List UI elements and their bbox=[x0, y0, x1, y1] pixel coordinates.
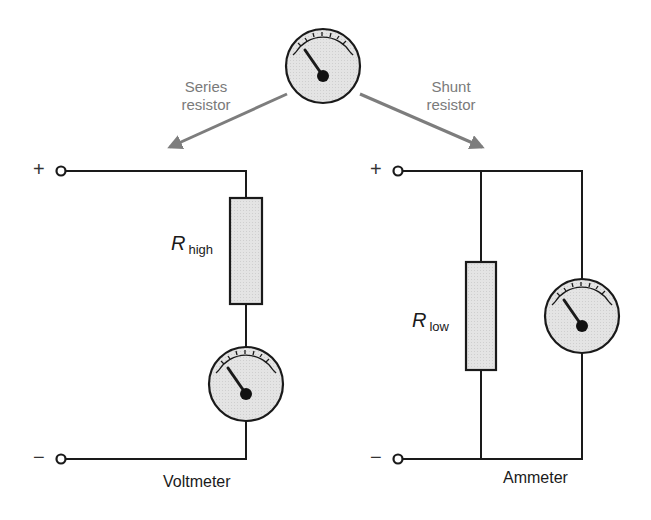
top-meter-icon bbox=[286, 29, 360, 103]
ammeter-meter-icon bbox=[545, 279, 619, 353]
minus-sign: − bbox=[370, 447, 382, 467]
minus-sign: − bbox=[33, 447, 45, 467]
ammeter-caption: Ammeter bbox=[503, 470, 568, 486]
label-line: Shunt bbox=[411, 78, 491, 96]
resistor-symbol: R bbox=[171, 232, 185, 254]
voltmeter-caption: Voltmeter bbox=[163, 474, 231, 490]
plus-sign: + bbox=[370, 159, 382, 179]
resistor-subscript: low bbox=[429, 319, 449, 334]
shunt-resistor-label: Shunt resistor bbox=[411, 78, 491, 114]
r-high-label: Rhigh bbox=[171, 233, 213, 256]
resistor-symbol: R bbox=[412, 309, 426, 331]
bottom-wire bbox=[66, 421, 246, 459]
circuit-diagram bbox=[0, 0, 651, 520]
r-high-resistor bbox=[230, 198, 262, 304]
label-line: resistor bbox=[166, 96, 246, 114]
label-line: resistor bbox=[411, 96, 491, 114]
minus-terminal-icon bbox=[57, 455, 66, 464]
voltmeter-meter-icon bbox=[209, 347, 283, 421]
r-low-label: Rlow bbox=[412, 310, 449, 333]
top-wire bbox=[66, 171, 246, 198]
plus-terminal-icon bbox=[57, 167, 66, 176]
plus-terminal-icon bbox=[394, 167, 403, 176]
series-resistor-label: Series resistor bbox=[166, 78, 246, 114]
r-low-resistor bbox=[466, 262, 496, 370]
plus-sign: + bbox=[33, 159, 45, 179]
minus-terminal-icon bbox=[394, 455, 403, 464]
voltmeter-circuit bbox=[57, 167, 284, 464]
resistor-subscript: high bbox=[188, 242, 213, 257]
label-line: Series bbox=[166, 78, 246, 96]
